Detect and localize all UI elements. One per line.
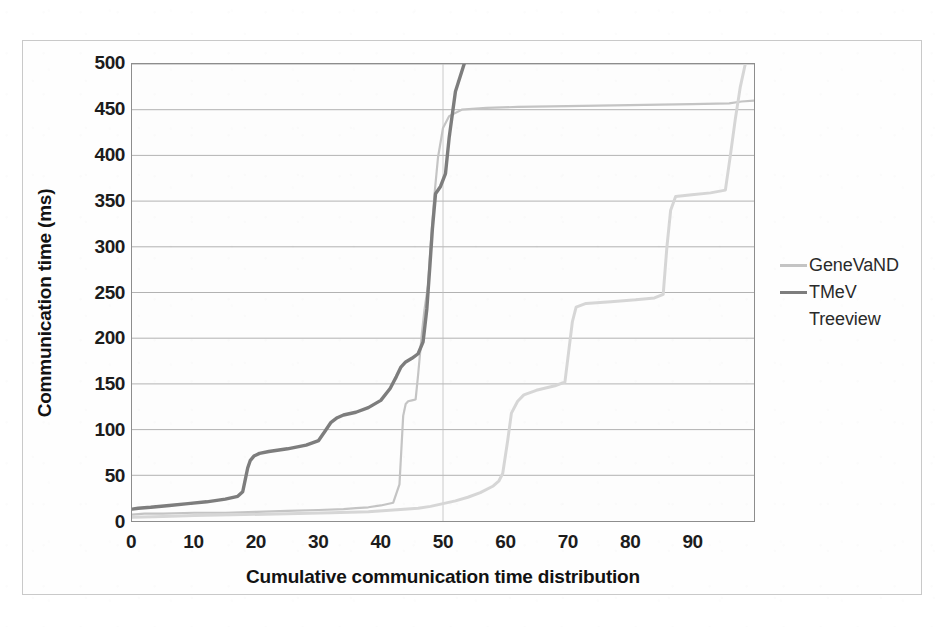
y-axis-title: Communication time (ms) — [34, 138, 56, 468]
legend-item-label: TMeV — [809, 279, 857, 306]
y-tick-label: 400 — [79, 144, 125, 166]
x-tick-label: 80 — [600, 531, 660, 553]
x-tick-label: 30 — [288, 531, 348, 553]
y-tick-label: 350 — [79, 190, 125, 212]
y-tick-label: 200 — [79, 327, 125, 349]
x-tick-label: 60 — [475, 531, 535, 553]
legend-item-label: GeneVaND — [809, 252, 899, 279]
plot-area — [131, 63, 755, 522]
x-tick-label: 70 — [538, 531, 598, 553]
legend-item[interactable]: GeneVaND — [779, 252, 929, 279]
y-tick-label: 500 — [79, 52, 125, 74]
y-tick-label: 250 — [79, 282, 125, 304]
y-tick-label: 450 — [79, 98, 125, 120]
legend-swatch-genevand-icon — [779, 252, 809, 279]
x-tick-label: 50 — [413, 531, 473, 553]
legend-swatch-tmev-icon — [779, 279, 809, 306]
y-tick-label: 300 — [79, 236, 125, 258]
x-axis-title: Cumulative communication time distributi… — [131, 566, 755, 588]
y-tick-label: 50 — [79, 465, 125, 487]
legend-item[interactable]: Treeview — [779, 306, 929, 333]
y-tick-label: 150 — [79, 373, 125, 395]
y-tick-label: 0 — [79, 511, 125, 533]
x-axis-tick-labels: 0102030405060708090 — [131, 531, 755, 559]
series-line-treeview — [132, 64, 745, 517]
chart-figure: Communication time (ms) 0501001502002503… — [0, 0, 948, 627]
series-curves — [132, 64, 754, 521]
x-tick-label: 90 — [663, 531, 723, 553]
series-line-genevand — [132, 101, 754, 515]
chart-legend: GeneVaNDTMeVTreeview — [779, 252, 929, 333]
series-line-tmev — [132, 64, 464, 509]
x-tick-label: 10 — [163, 531, 223, 553]
x-tick-label: 40 — [351, 531, 411, 553]
legend-item[interactable]: TMeV — [779, 279, 929, 306]
x-tick-label: 0 — [101, 531, 161, 553]
y-tick-label: 100 — [79, 419, 125, 441]
x-tick-label: 20 — [226, 531, 286, 553]
legend-item-label: Treeview — [809, 306, 881, 333]
legend-swatch-treeview-icon — [779, 306, 809, 333]
y-axis-tick-labels: 050100150200250300350400450500 — [72, 63, 125, 522]
